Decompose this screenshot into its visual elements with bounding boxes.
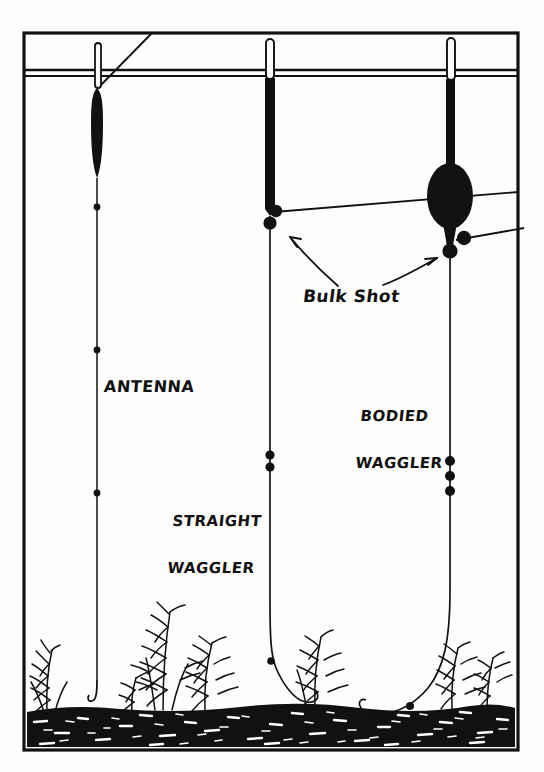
float-rigs-illustration <box>0 0 544 772</box>
split-shot <box>457 231 471 245</box>
float-antenna-tip <box>266 39 274 79</box>
split-shot <box>267 657 275 665</box>
diagram-canvas: ANTENNA STRAIGHT WAGGLER BODIED WAGGLER … <box>0 0 544 772</box>
label-straight-waggler-line2: WAGGLER <box>167 561 258 577</box>
split-shot <box>94 347 101 354</box>
split-shot <box>406 702 414 710</box>
split-shot <box>94 490 101 497</box>
label-straight-waggler: STRAIGHT WAGGLER <box>163 482 265 608</box>
split-shot <box>442 243 457 258</box>
label-straight-waggler-line1: STRAIGHT <box>172 514 263 530</box>
float-body-straight-waggler <box>265 78 275 209</box>
float-antenna-tip <box>447 38 455 80</box>
lake-bed <box>27 704 515 747</box>
label-bodied-waggler-line1: BODIED <box>360 409 449 425</box>
split-shot <box>94 204 101 211</box>
float-antenna-tip <box>95 43 101 88</box>
label-bulk-shot: Bulk Shot <box>302 288 401 306</box>
split-shot <box>265 450 274 459</box>
split-shot <box>265 462 274 471</box>
label-bodied-waggler: BODIED WAGGLER <box>351 377 451 503</box>
label-antenna: ANTENNA <box>103 379 195 396</box>
split-shot <box>445 456 455 466</box>
split-shot <box>270 205 282 217</box>
split-shot <box>445 471 455 481</box>
label-bodied-waggler-line2: WAGGLER <box>355 456 444 472</box>
float-stem-bodied-waggler <box>446 79 455 174</box>
split-shot <box>445 486 455 496</box>
float-body-bodied-waggler <box>427 163 473 229</box>
split-shot <box>263 216 276 229</box>
